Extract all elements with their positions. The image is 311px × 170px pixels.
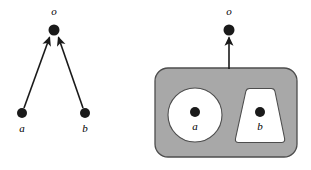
node-a-label: a (192, 120, 198, 132)
node-o-label: o (51, 5, 57, 17)
figure-svg: o a b a b o (0, 0, 311, 170)
right-panel: a b o (155, 5, 297, 157)
node-b[interactable] (255, 107, 265, 117)
node-b-label: b (82, 122, 88, 134)
node-b[interactable] (80, 108, 90, 118)
figure-canvas: o a b a b o (0, 0, 311, 170)
node-o[interactable] (224, 25, 235, 36)
edge-b-to-o (59, 38, 84, 109)
node-o[interactable] (49, 25, 60, 36)
edge-a-to-o (24, 38, 50, 109)
node-o-label: o (226, 5, 232, 17)
node-b-label: b (257, 120, 263, 132)
node-a-label: a (19, 122, 25, 134)
left-panel: o a b (17, 5, 90, 134)
node-a[interactable] (190, 107, 200, 117)
node-a[interactable] (17, 108, 27, 118)
